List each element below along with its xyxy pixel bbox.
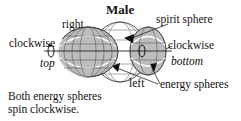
label-spirit-sphere: spirit sphere (156, 14, 213, 26)
label-clockwise-right: clockwise (168, 40, 214, 52)
caption-line-2: spin clockwise. (8, 103, 102, 116)
label-right: right (62, 19, 84, 31)
caption-line-1: Both energy spheres (8, 90, 102, 103)
left-energy-sphere (58, 27, 118, 77)
label-bottom: bottom (171, 56, 203, 68)
label-clockwise-left: clockwise (9, 38, 55, 50)
male-sphere-diagram: Male right spirit sphere clockwise clock… (0, 0, 241, 121)
label-top: top (40, 58, 55, 70)
label-left: left (129, 78, 144, 90)
diagram-title: Male (106, 3, 134, 16)
caption: Both energy spheres spin clockwise. (8, 90, 102, 116)
label-energy-spheres: energy spheres (160, 79, 228, 91)
